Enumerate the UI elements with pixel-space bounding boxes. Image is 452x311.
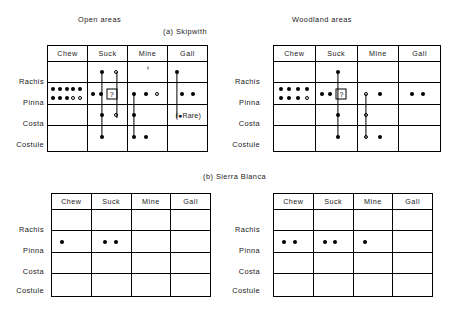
filled-circle-icon bbox=[296, 87, 300, 91]
row-label-pinna-a-right: Pinna bbox=[218, 98, 260, 107]
column-header-suck: Suck bbox=[316, 46, 358, 61]
row-label-costa-b-left: Costa bbox=[2, 267, 44, 276]
column-header-mine: Mine bbox=[354, 194, 394, 209]
table-skipwith-woodland: Chew Suck Mine Gall bbox=[273, 45, 441, 152]
cell-rachis-mine bbox=[132, 210, 172, 230]
row-label-rachis-b-left: Rachis bbox=[2, 225, 44, 234]
filled-circle-icon bbox=[58, 96, 62, 100]
filled-circle-icon bbox=[410, 92, 414, 96]
cell-rachis-mine bbox=[354, 210, 394, 230]
rare-note: (●Rare) bbox=[176, 112, 201, 119]
filled-circle-icon bbox=[100, 113, 104, 117]
cell-costa-suck bbox=[88, 105, 128, 125]
filled-circle-icon bbox=[103, 240, 107, 244]
filled-circle-icon bbox=[293, 240, 297, 244]
panel-a-right-title: Woodland areas bbox=[292, 15, 352, 24]
cell-rachis-gall bbox=[168, 62, 207, 82]
unknown-status-box: ? bbox=[336, 88, 347, 99]
table-row bbox=[52, 274, 210, 297]
cell-costa-chew bbox=[48, 105, 88, 125]
cell-costa-mine bbox=[132, 253, 172, 273]
tick-mark-icon bbox=[148, 67, 149, 70]
cell-costa-mine bbox=[354, 253, 394, 273]
panel-a-left-title: Open areas bbox=[78, 15, 121, 24]
cell-rachis-chew bbox=[274, 62, 316, 82]
cell-costa-mine bbox=[358, 105, 400, 125]
column-header-chew: Chew bbox=[52, 194, 92, 209]
cell-rachis-suck bbox=[88, 62, 128, 82]
row-label-costule-b-left: Costule bbox=[2, 286, 44, 295]
figure-root: Open areas (a) Skipwith Woodland areas R… bbox=[0, 0, 452, 311]
column-header-suck: Suck bbox=[314, 194, 354, 209]
column-header-chew: Chew bbox=[274, 194, 314, 209]
cell-pinna-suck bbox=[92, 231, 132, 252]
cell-costule-chew bbox=[274, 274, 314, 297]
cell-costule-suck bbox=[316, 126, 358, 151]
filled-circle-icon bbox=[363, 240, 367, 244]
table-sierra-blanca-woodland: Chew Suck Mine Gall bbox=[273, 193, 433, 297]
row-label-rachis-b-right: Rachis bbox=[218, 225, 260, 234]
cell-costule-gall bbox=[168, 126, 207, 151]
filled-circle-icon bbox=[175, 70, 179, 74]
filled-circle-icon bbox=[287, 96, 291, 100]
cell-pinna-gall bbox=[171, 231, 210, 252]
filled-circle-icon bbox=[51, 96, 55, 100]
column-header-row: Chew Suck Mine Gall bbox=[274, 194, 432, 210]
cell-pinna-suck bbox=[314, 231, 354, 252]
cell-costa-suck bbox=[316, 105, 358, 125]
filled-circle-icon bbox=[320, 92, 324, 96]
cell-pinna-chew bbox=[274, 83, 316, 104]
unknown-status-box: ? bbox=[106, 88, 117, 99]
column-header-suck: Suck bbox=[88, 46, 128, 61]
filled-circle-icon bbox=[58, 87, 62, 91]
filled-circle-icon bbox=[336, 135, 340, 139]
cell-rachis-mine bbox=[358, 62, 400, 82]
row-label-costule-a-right: Costule bbox=[218, 140, 260, 149]
filled-circle-icon bbox=[132, 135, 136, 139]
table-row bbox=[52, 210, 210, 231]
filled-circle-icon bbox=[144, 92, 148, 96]
cell-pinna-chew bbox=[274, 231, 314, 252]
table-row bbox=[274, 274, 432, 297]
row-label-costa-b-right: Costa bbox=[218, 267, 260, 276]
cell-costa-mine bbox=[128, 105, 168, 125]
open-circle-icon bbox=[364, 113, 368, 117]
cell-costa-chew bbox=[274, 253, 314, 273]
cell-costa-chew bbox=[52, 253, 92, 273]
table-row: ? bbox=[48, 83, 207, 105]
column-header-suck: Suck bbox=[92, 194, 132, 209]
cell-costule-gall bbox=[171, 274, 210, 297]
filled-circle-icon bbox=[65, 96, 69, 100]
table-row bbox=[274, 62, 440, 83]
table-row bbox=[274, 231, 432, 253]
cell-pinna-mine bbox=[128, 83, 168, 104]
cell-rachis-chew bbox=[48, 62, 88, 82]
row-label-costule-a-left: Costule bbox=[2, 140, 44, 149]
filled-circle-icon bbox=[132, 92, 136, 96]
cell-pinna-chew bbox=[52, 231, 92, 252]
cell-pinna-gall bbox=[393, 231, 432, 252]
cell-pinna-suck: ? bbox=[316, 83, 358, 104]
filled-circle-icon bbox=[191, 92, 195, 96]
cell-costule-suck bbox=[314, 274, 354, 297]
row-label-costule-b-right: Costule bbox=[218, 286, 260, 295]
filled-circle-icon bbox=[132, 113, 136, 117]
filled-circle-icon bbox=[91, 92, 95, 96]
table-row bbox=[52, 253, 210, 274]
cell-pinna-mine bbox=[354, 231, 394, 252]
column-header-chew: Chew bbox=[274, 46, 316, 61]
cell-rachis-suck bbox=[92, 210, 132, 230]
filled-circle-icon bbox=[279, 96, 283, 100]
filled-circle-icon bbox=[51, 87, 55, 91]
cell-rachis-gall bbox=[399, 62, 440, 82]
table-row bbox=[274, 105, 440, 126]
filled-circle-icon bbox=[114, 240, 118, 244]
cell-costule-chew bbox=[274, 126, 316, 151]
filled-circle-icon bbox=[99, 92, 103, 96]
table-row bbox=[274, 253, 432, 274]
filled-circle-icon bbox=[65, 87, 69, 91]
cell-costule-mine bbox=[358, 126, 400, 151]
cell-costule-gall bbox=[399, 126, 440, 151]
filled-circle-icon bbox=[323, 240, 327, 244]
column-header-gall: Gall bbox=[168, 46, 207, 61]
